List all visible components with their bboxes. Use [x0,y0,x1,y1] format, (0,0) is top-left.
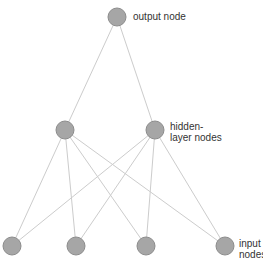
edge-h2-i3 [146,130,155,246]
input-node-i4 [216,237,234,255]
edge-h1-i1 [12,130,65,246]
input-node-i3 [137,237,155,255]
edge-h2-i4 [155,130,225,246]
edge-h1-i2 [65,130,76,246]
input-nodes-label: input nodes [239,238,263,260]
edge-h1-i4 [65,130,225,246]
input-node-i2 [67,237,85,255]
network-diagram [0,0,263,260]
input-node-i1 [3,237,21,255]
edge-h2-i2 [76,130,155,246]
hidden-layer-label: hidden- layer nodes [170,121,222,143]
output-node-label: output node [133,11,186,22]
hidden-node-h1 [56,121,74,139]
hidden-node-h2 [146,121,164,139]
edge-o1-h1 [65,17,117,130]
output-node-o1 [108,8,126,26]
edge-o1-h2 [117,17,155,130]
